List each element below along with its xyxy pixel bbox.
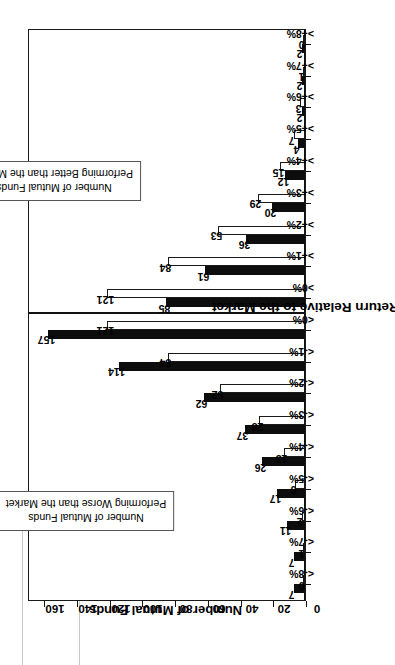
value-tick-label: 20 [271,603,297,615]
bar-value-label: 7 [289,135,295,146]
bar-value-label: 85 [158,303,170,314]
category-tick-label: >+1% [287,250,314,262]
category-tick-label: >+6% [287,91,314,103]
category-tick-label: >+5% [287,123,314,135]
value-tick-label: 80 [173,603,199,615]
category-tick-label: >+7% [287,60,314,72]
bar-black: 20 [272,203,305,212]
bar-black: 114 [119,362,305,371]
bar-group: 11484 [119,346,305,378]
category-tick-mark [306,298,311,299]
bar-black: 2 [302,107,305,116]
bar-black: 12 [285,171,305,180]
category-tick-label: >+3% [287,187,314,199]
category-tick-mark [306,107,311,108]
bar-value-label: 26 [255,462,267,473]
bar-black: 157 [48,330,305,339]
value-tick-label: 120 [108,603,134,615]
category-tick-label: <-1% [289,346,314,358]
bar-value-label: 52 [212,389,224,400]
category-tick-label: <-2% [289,377,314,389]
category-tick-mark [306,584,311,585]
bar-value-label: 157 [38,334,56,345]
bar-white: 121 [107,321,305,330]
x-axis-title: Excess Compound Return Relative to the M… [212,300,395,315]
bar-value-label: 4 [294,144,300,155]
bar-black: 36 [246,235,305,244]
category-tick-mark [306,393,311,394]
bar-value-label: 62 [196,398,208,409]
annotation-better-box: Number of Mutual Funds Performing Better… [0,160,141,200]
bar-value-label: 61 [197,271,209,282]
bar-value-label: 53 [211,230,223,241]
value-tick-label: 60 [206,603,232,615]
category-tick-mark [306,235,311,236]
bar-value-label: 13 [276,453,288,464]
bar-value-label: 84 [160,262,172,273]
bar-group: 6184 [168,250,305,282]
bar-white: 84 [168,257,305,266]
bar-white: 121 [107,289,305,298]
bar-value-label: 15 [273,167,285,178]
category-tick-mark [306,552,311,553]
category-tick-label: >+2% [287,219,314,231]
bar-black: 4 [298,139,305,148]
category-tick-mark [306,330,311,331]
category-tick-mark [306,203,311,204]
category-tick-mark [306,489,311,490]
category-tick-label: <-6% [289,505,314,517]
bar-value-label: 1 [298,548,304,559]
category-tick-mark [306,266,311,267]
annotation-better-line1: Number of Mutual Funds [0,180,133,194]
bar-group: 157121 [48,314,305,346]
bar-value-label: 7 [289,589,295,600]
bar-value-label: 6 [290,484,296,495]
bar-value-label: 121 [96,325,114,336]
category-tick-label: >+8% [287,28,314,40]
annotation-worse-box: Number of Mutual Funds Performing Worse … [0,491,174,531]
category-tick-mark [306,425,311,426]
value-tick-label: 100 [140,603,166,615]
value-tick-label: 140 [75,603,101,615]
category-tick-mark [306,44,311,45]
category-tick-label: <0% [293,314,314,326]
bar-value-label: 36 [238,239,250,250]
value-tick-label: 160 [42,603,68,615]
bar-value-label: 17 [269,493,281,504]
category-tick-mark [306,521,311,522]
category-tick-mark [306,457,311,458]
bar-white: 84 [168,353,305,362]
bar-black: 61 [205,266,305,275]
category-tick-label: >0% [293,282,314,294]
bar-value-label: 2 [297,516,303,527]
bar-value-label: 121 [96,294,114,305]
bar-value-label: 11 [279,525,290,536]
value-tick-label: 0 [304,603,330,615]
bar-value-label: 29 [250,198,262,209]
category-tick-mark [306,362,311,363]
bar-value-label: 1 [298,71,304,82]
bar-value-label: 7 [289,557,295,568]
bar-value-label: 28 [251,421,263,432]
value-tick-label: 40 [239,603,265,615]
category-tick-label: <-3% [289,409,314,421]
category-tick-label: <-4% [289,441,314,453]
annotation-better-line2: Performing Better than the Market [0,166,133,180]
bar-value-label: 84 [160,357,172,368]
bar-value-label: 20 [264,207,276,218]
chart-figure: 7071112176261337286252114841571218512161… [0,0,395,665]
bar-value-label: 114 [108,366,125,377]
category-tick-label: >+4% [287,155,314,167]
rotated-figure-wrapper: 7071112176261337286252114841571218512161… [0,0,395,665]
category-tick-mark [306,171,311,172]
category-tick-mark [306,76,311,77]
category-tick-mark [306,139,311,140]
bar-value-label: 37 [237,430,249,441]
bar-value-label: 0 [298,39,304,50]
bar-value-label: 3 [295,103,301,114]
annotation-worse-line2: Performing Worse than the Market [6,497,166,511]
category-tick-label: <-8% [289,568,314,580]
category-tick-label: <-7% [289,536,314,548]
annotation-worse-line1: Number of Mutual Funds [6,511,166,525]
category-tick-label: <-5% [289,473,314,485]
